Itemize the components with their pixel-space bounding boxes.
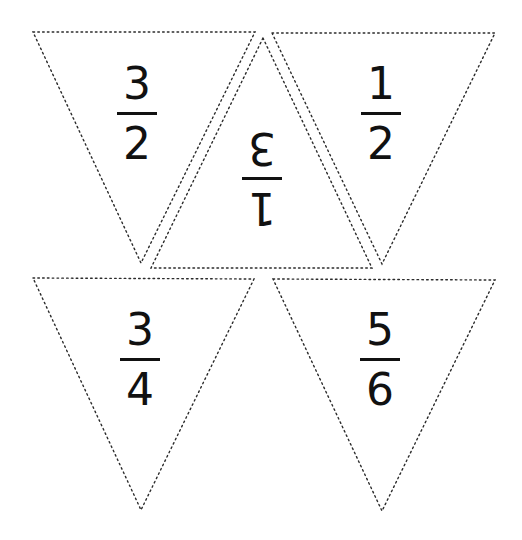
- denominator: 2: [367, 122, 395, 166]
- fraction-bar: [120, 358, 160, 361]
- numerator: 1: [248, 186, 276, 230]
- fraction-bar: [242, 177, 282, 180]
- numerator: 5: [366, 308, 394, 352]
- denominator: 3: [248, 126, 276, 170]
- denominator: 6: [366, 368, 394, 412]
- fraction-top-right: 1 2: [351, 62, 411, 166]
- fraction-bottom-right: 5 6: [350, 308, 410, 412]
- denominator: 2: [123, 122, 151, 166]
- fraction-bar: [117, 112, 157, 115]
- denominator: 4: [126, 368, 154, 412]
- numerator: 1: [367, 62, 395, 106]
- fraction-top-middle: 1 3: [232, 126, 292, 230]
- fraction-top-left: 3 2: [107, 62, 167, 166]
- numerator: 3: [123, 62, 151, 106]
- fraction-bottom-left: 3 4: [110, 308, 170, 412]
- pennant-outlines: [0, 0, 522, 540]
- fraction-bar: [360, 358, 400, 361]
- numerator: 3: [126, 308, 154, 352]
- fraction-bar: [361, 112, 401, 115]
